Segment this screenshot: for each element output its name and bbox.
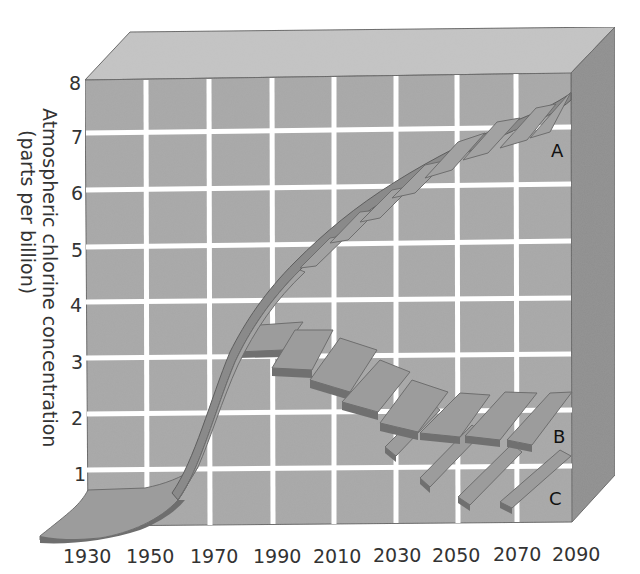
y-axis-title: Atmospheric chlorine concentration (part… [17, 108, 61, 447]
svg-text:7: 7 [71, 126, 83, 148]
svg-text:4: 4 [70, 294, 82, 316]
svg-text:6: 6 [71, 182, 83, 204]
svg-text:3: 3 [71, 351, 83, 373]
svg-text:Atmospheric chlorine concentra: Atmospheric chlorine concentration [39, 108, 61, 447]
svg-text:2070: 2070 [493, 543, 541, 565]
svg-text:2050: 2050 [432, 544, 480, 566]
svg-text:8: 8 [69, 72, 81, 94]
x-axis-ticks: 1930 1950 1970 1990 2010 2030 2050 2070 … [63, 543, 600, 567]
svg-text:1950: 1950 [126, 545, 174, 567]
svg-text:1: 1 [74, 463, 86, 485]
svg-text:1970: 1970 [190, 545, 238, 567]
svg-text:5: 5 [71, 239, 83, 261]
curve-b-label: B [553, 426, 565, 447]
svg-text:2010: 2010 [313, 545, 361, 567]
y-axis-ticks: 8 7 6 5 4 3 2 1 [69, 72, 86, 485]
curve-c-label: C [549, 488, 562, 509]
svg-text:2090: 2090 [552, 543, 600, 565]
chlorine-chart: A B C 8 7 6 5 4 3 2 1 Atmospheric chlori… [0, 0, 640, 574]
svg-text:2: 2 [71, 407, 83, 429]
box-side-face [571, 27, 615, 522]
svg-text:1990: 1990 [253, 545, 301, 567]
svg-text:1930: 1930 [63, 545, 111, 567]
svg-text:(parts per billion): (parts per billion) [17, 130, 39, 294]
svg-text:2030: 2030 [373, 544, 421, 566]
curve-a-label: A [551, 140, 564, 161]
box-top-face [85, 27, 615, 80]
